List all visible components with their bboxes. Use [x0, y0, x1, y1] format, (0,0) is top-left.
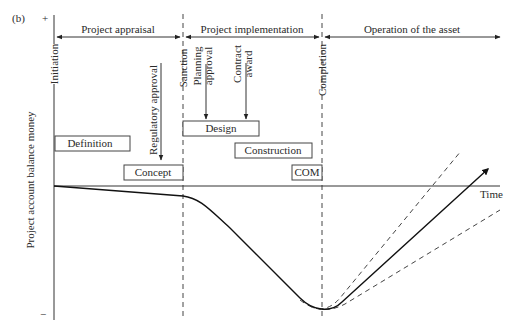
figure-label: (b) — [12, 12, 25, 25]
activity-design-label: Design — [205, 122, 237, 134]
y-axis-label: Project account balance money — [24, 111, 36, 249]
milestone-initiation: Initiation — [48, 43, 60, 84]
milestone-sanction: Sanction — [177, 48, 189, 87]
milestone-completion: Completion — [316, 44, 328, 96]
activity-com-label: COM — [294, 166, 319, 178]
plus-sign: + — [42, 12, 48, 24]
milestone-regulatory-approval: Regulatory approval — [147, 65, 159, 155]
project-lifecycle-diagram: (b) + − Project account balance money In… — [0, 0, 519, 333]
upper-bound-curve — [310, 151, 461, 309]
milestone-planning-approval: approval — [202, 47, 214, 85]
phase-operation-label: Operation of the asset — [364, 23, 460, 35]
activity-concept-label: Concept — [135, 166, 172, 178]
time-axis-label: Time — [480, 188, 503, 200]
phase-implementation-label: Project implementation — [201, 23, 304, 35]
activity-construction-label: Construction — [245, 144, 302, 156]
balance-curve — [54, 169, 488, 309]
milestone-contract-award: award — [242, 50, 254, 77]
phase-appraisal-label: Project appraisal — [81, 23, 155, 35]
activity-definition-label: Definition — [67, 137, 113, 149]
minus-sign: − — [40, 308, 46, 320]
